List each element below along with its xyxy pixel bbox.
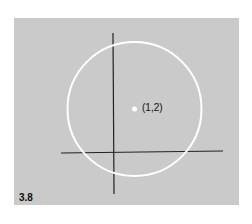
y-axis [113, 33, 114, 194]
center-point-label: (1,2) [142, 102, 163, 113]
figure-label: 3.8 [19, 192, 33, 203]
coordinate-diagram [0, 0, 252, 224]
x-axis [61, 151, 223, 153]
center-point [132, 107, 137, 112]
